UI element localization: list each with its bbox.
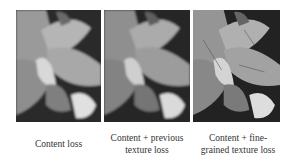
caption-line: Content + fine- bbox=[188, 132, 288, 144]
caption-content-fine-grained-texture: Content + fine- grained texture loss bbox=[188, 132, 288, 156]
panel-image-content-previous-texture bbox=[104, 10, 190, 122]
caption-line: texture loss bbox=[97, 144, 197, 156]
caption-line: Content loss bbox=[6, 138, 111, 150]
leaf-image bbox=[193, 10, 280, 122]
leaf-image bbox=[16, 10, 101, 122]
caption-line: grained texture loss bbox=[188, 144, 288, 156]
leaf-image bbox=[104, 10, 190, 122]
panel-image-content-loss bbox=[16, 10, 101, 122]
caption-content-previous-texture: Content + previous texture loss bbox=[97, 132, 197, 156]
caption-content-loss: Content loss bbox=[6, 138, 111, 150]
caption-line: Content + previous bbox=[97, 132, 197, 144]
panel-image-content-fine-grained-texture bbox=[193, 10, 280, 122]
